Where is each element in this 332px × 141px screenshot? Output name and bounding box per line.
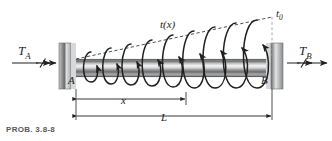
figure-prob-3-8-8: TA TB A B t(x) t0 x L PROB. 3.8-8	[0, 0, 332, 141]
label-end-a: A	[68, 75, 75, 86]
shaft-bar	[76, 59, 266, 77]
label-torque-a: TA	[18, 44, 31, 60]
distributed-torque-arrows	[83, 20, 268, 88]
label-dimension-l: L	[161, 112, 167, 123]
label-dimension-x: x	[121, 95, 126, 106]
torque-arrow	[203, 27, 226, 88]
label-peak-intensity: t0	[276, 8, 283, 22]
label-end-b: B	[261, 75, 268, 86]
dimension-x	[76, 89, 186, 105]
dimension-L	[76, 89, 272, 120]
label-distributed-torque: t(x)	[160, 19, 175, 30]
figure-caption: PROB. 3.8-8	[6, 125, 55, 134]
label-torque-b: TB	[299, 44, 312, 60]
